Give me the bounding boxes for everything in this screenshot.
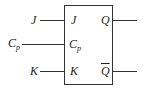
- output-qbar-label: Q: [101, 65, 110, 77]
- input-j-wire: [40, 20, 64, 21]
- input-cp-label: Cp: [8, 37, 20, 52]
- output-q-wire: [113, 20, 137, 21]
- pin-j-label: J: [71, 14, 76, 26]
- input-cp-wire: [22, 44, 64, 45]
- input-k-wire: [40, 71, 64, 72]
- input-k-label: K: [30, 65, 38, 77]
- input-j-label: J: [31, 14, 36, 26]
- pin-k-label: K: [70, 65, 78, 77]
- output-qbar-wire: [113, 71, 137, 72]
- output-q-label: Q: [101, 14, 110, 26]
- pin-cp-label: Cp: [69, 38, 81, 53]
